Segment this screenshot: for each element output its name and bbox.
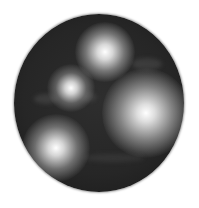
upper-left-spot — [47, 64, 95, 112]
sphere — [14, 14, 184, 192]
right-spot — [102, 68, 184, 158]
lower-left-spot — [22, 114, 90, 182]
